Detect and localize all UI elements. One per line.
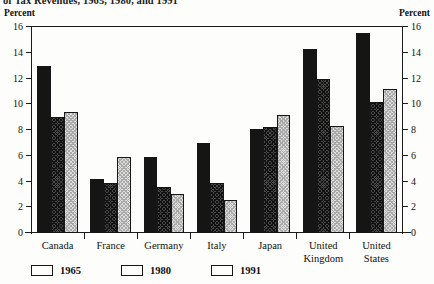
right-axis-tick-label: 8 [411,125,416,135]
chart-legend: 196519801991 [31,265,301,276]
legend-swatch-1991 [211,265,233,276]
category-label-united-kingdom: United Kingdom [297,240,350,265]
figure-title-truncated: of Tax Revenues, 1965, 1980, and 1991 [3,0,178,6]
group-separator-tick [190,233,191,239]
right-axis-tick-label: 0 [411,228,416,238]
bar-japan-1965 [250,129,264,233]
legend-label-1965: 1965 [60,265,81,276]
left-axis-tick-label: 2 [18,202,23,212]
right-axis-unit-label: Percent [399,8,430,18]
bar-canada-1980 [51,117,65,233]
bar-united-states-1980 [370,102,384,233]
legend-label-1980: 1980 [150,265,171,276]
right-axis-tick [403,52,408,53]
bar-united-kingdom-1991 [330,126,344,233]
bar-united-states-1991 [383,89,397,233]
legend-label-1991: 1991 [240,265,261,276]
group-separator-tick [296,233,297,239]
left-axis-tick-label: 4 [18,177,23,187]
legend-item-1980: 1980 [121,265,171,276]
right-axis-tick-label: 14 [411,48,421,58]
right-axis-tick-label: 6 [411,151,416,161]
left-axis-tick-label: 16 [13,22,23,32]
legend-swatch-1965 [31,265,53,276]
right-axis-tick-label: 12 [411,74,421,84]
right-axis-tick-label: 16 [411,22,421,32]
bar-france-1991 [117,157,131,233]
legend-swatch-1980 [121,265,143,276]
right-axis-tick-label: 4 [411,177,416,187]
bar-group-united-states [350,27,403,233]
bar-france-1965 [90,179,104,233]
category-label-united-states: United States [350,240,403,265]
right-axis-tick-label: 10 [411,99,421,109]
bar-united-kingdom-1965 [303,49,317,233]
left-axis-tick-label: 14 [13,48,23,58]
figure-panel: of Tax Revenues, 1965, 1980, and 1991 Pe… [0,0,434,284]
right-axis-tick [403,78,408,79]
bar-france-1980 [104,183,118,233]
bar-canada-1965 [37,66,51,233]
right-axis-tick [403,155,408,156]
right-axis-tick [403,26,408,27]
bar-italy-1980 [210,183,224,233]
bar-group-france [84,27,137,233]
group-separator-tick [349,233,350,239]
bar-united-kingdom-1980 [317,79,331,234]
bar-italy-1991 [224,200,238,233]
left-axis-tick-label: 10 [13,99,23,109]
left-axis-tick-label: 0 [18,228,23,238]
group-separator-tick [137,233,138,239]
bar-germany-1965 [144,157,158,233]
left-axis-tick-label: 12 [13,74,23,84]
right-axis-tick [403,129,408,130]
category-label-italy: Italy [190,240,243,253]
category-label-germany: Germany [137,240,190,253]
bar-group-germany [137,27,190,233]
right-axis-tick [403,103,408,104]
right-axis-tick-label: 2 [411,202,416,212]
legend-item-1965: 1965 [31,265,81,276]
bar-japan-1991 [277,115,291,233]
right-axis-tick [403,232,408,233]
group-separator-tick [243,233,244,239]
category-label-france: France [84,240,137,253]
bar-group-canada [31,27,84,233]
right-axis-tick [403,181,408,182]
bar-group-japan [244,27,297,233]
bar-japan-1980 [263,127,277,233]
bar-canada-1991 [64,112,78,233]
bar-group-italy [190,27,243,233]
category-label-canada: Canada [31,240,84,253]
bar-groups [31,27,403,233]
bar-group-united-kingdom [297,27,350,233]
left-axis-tick-label: 6 [18,151,23,161]
bar-germany-1991 [171,194,185,233]
left-axis-unit-label: Percent [4,8,35,18]
bar-germany-1980 [157,187,171,233]
bar-united-states-1965 [356,33,370,233]
group-separator-tick [84,233,85,239]
legend-item-1991: 1991 [211,265,261,276]
right-axis-tick [403,206,408,207]
bar-italy-1965 [197,143,211,233]
left-axis-tick-label: 8 [18,125,23,135]
category-label-japan: Japan [244,240,297,253]
plot-area: 0246810121416 0246810121416 [31,27,403,233]
